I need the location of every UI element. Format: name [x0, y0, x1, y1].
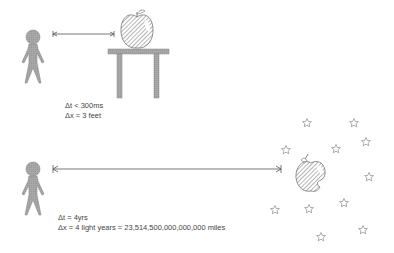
distance-arrow-far — [53, 165, 281, 173]
distance-arrow-near — [53, 31, 114, 37]
star-icon — [303, 119, 312, 127]
table — [108, 49, 169, 98]
person-far — [22, 162, 44, 215]
star-icon — [305, 205, 314, 213]
star-icon — [332, 145, 341, 153]
far-delta-x-label: Δx = 4 light years = 23,514,500,000,000,… — [58, 223, 225, 233]
star-icon — [282, 146, 291, 154]
star-icon — [359, 226, 368, 234]
near-delta-x-label: Δx = 3 feet — [65, 111, 101, 121]
star-icon — [365, 173, 374, 181]
apple-near-icon — [121, 10, 153, 48]
near-delta-t-label: Δt < 300ms — [65, 101, 103, 111]
apple-far-icon — [296, 154, 325, 191]
far-delta-t-label: Δt = 4yrs — [58, 213, 88, 223]
person-near — [22, 30, 44, 83]
star-icon — [317, 233, 326, 241]
star-icon — [362, 138, 371, 146]
star-icon — [340, 199, 349, 207]
star-icon — [350, 119, 359, 127]
star-icon — [271, 206, 280, 214]
